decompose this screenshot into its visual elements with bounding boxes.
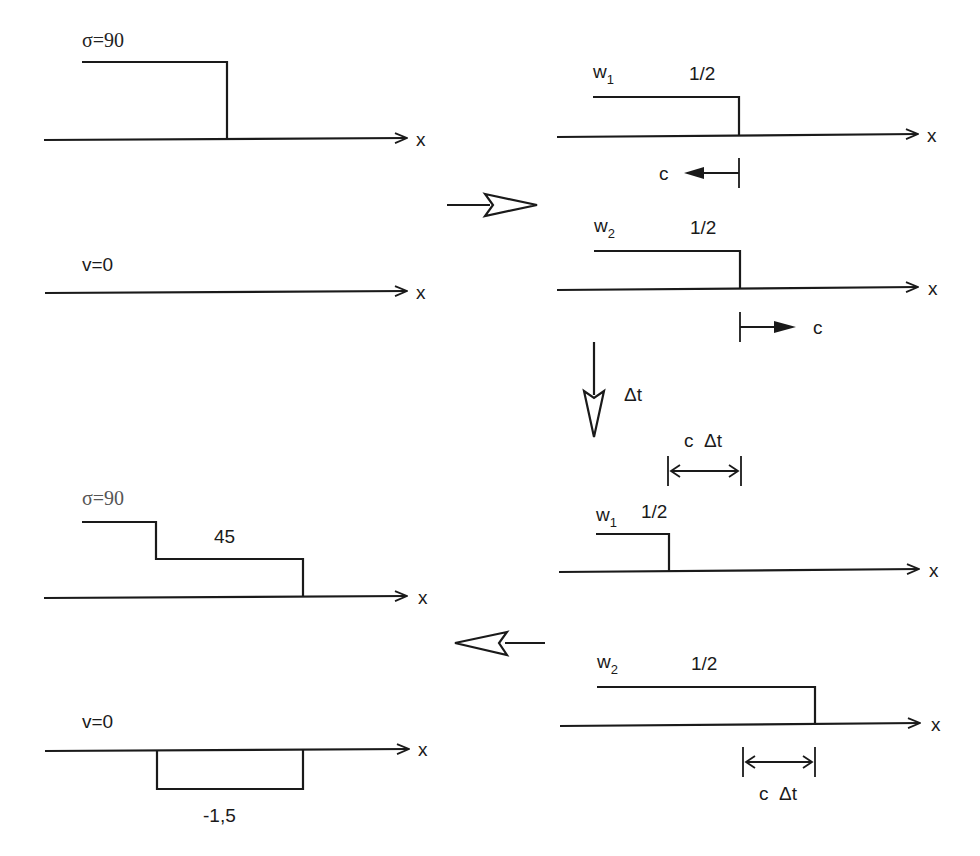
advected-w1-plot: c Δt w1 1/2 x bbox=[559, 430, 939, 581]
wave-splitting-diagram: σ=90 x v=0 x w1 1/2 x c w2 1/2 x bbox=[0, 0, 980, 856]
advected-w2-profile bbox=[597, 687, 815, 725]
shift-label-bottom: c Δt bbox=[759, 783, 798, 804]
result-velocity-step-label: -1,5 bbox=[203, 805, 236, 826]
split-w1-plot: w1 1/2 x c bbox=[557, 61, 937, 188]
split-w1-label: w1 bbox=[592, 61, 614, 87]
time-step-label: Δt bbox=[624, 384, 643, 405]
split-w1-value-label: 1/2 bbox=[689, 63, 715, 84]
split-w2-velocity-label: c bbox=[813, 317, 823, 338]
hollow-down-arrow-icon bbox=[584, 342, 604, 437]
initial-stress-profile bbox=[82, 62, 227, 139]
initial-velocity-label: v=0 bbox=[82, 254, 113, 275]
result-stress-plot: σ=90 45 x bbox=[44, 487, 428, 608]
result-stress-label: σ=90 bbox=[82, 487, 124, 509]
result-velocity-profile bbox=[157, 749, 303, 789]
split-w2-profile bbox=[594, 251, 740, 289]
result-stress-axis bbox=[44, 596, 407, 598]
shift-dimension-top-icon bbox=[668, 456, 741, 486]
split-w2-plot: w2 1/2 x c bbox=[557, 215, 938, 342]
result-stress-axis-label: x bbox=[418, 587, 428, 608]
result-velocity-label: v=0 bbox=[82, 711, 113, 732]
split-w2-label: w2 bbox=[593, 215, 615, 241]
shift-dimension-bottom-icon bbox=[743, 747, 815, 777]
result-stress-step-label: 45 bbox=[214, 526, 235, 547]
initial-velocity-axis bbox=[45, 291, 407, 293]
initial-stress-axis bbox=[44, 138, 407, 140]
split-w2-value-label: 1/2 bbox=[690, 217, 716, 238]
split-w1-axis bbox=[557, 134, 918, 137]
split-w1-velocity-label: c bbox=[659, 163, 669, 184]
result-stress-profile bbox=[82, 522, 303, 597]
split-w2-axis bbox=[557, 287, 918, 290]
advected-w1-profile bbox=[596, 534, 669, 571]
advected-w2-plot: w2 1/2 x c Δt bbox=[560, 651, 941, 804]
result-velocity-axis bbox=[45, 749, 409, 751]
advected-w1-label: w1 bbox=[595, 504, 617, 530]
right-velocity-arrow-icon bbox=[740, 312, 796, 342]
result-velocity-axis-label: x bbox=[418, 739, 428, 760]
advected-w2-axis bbox=[560, 723, 920, 726]
advected-w2-label: w2 bbox=[596, 651, 618, 677]
advected-w2-value-label: 1/2 bbox=[691, 653, 717, 674]
advected-w1-axis-label: x bbox=[929, 560, 939, 581]
initial-stress-label: σ=90 bbox=[82, 29, 124, 51]
shift-label-top: c Δt bbox=[684, 430, 723, 451]
initial-stress-plot: σ=90 x bbox=[44, 29, 426, 150]
hollow-left-arrow-icon bbox=[455, 632, 545, 655]
hollow-right-arrow-icon bbox=[447, 194, 537, 216]
advected-w1-value-label: 1/2 bbox=[641, 501, 667, 522]
split-w1-profile bbox=[593, 97, 739, 136]
advected-w1-axis bbox=[559, 569, 919, 572]
initial-velocity-plot: v=0 x bbox=[45, 254, 426, 303]
split-w2-axis-label: x bbox=[928, 278, 938, 299]
split-w1-axis-label: x bbox=[927, 125, 937, 146]
advected-w2-axis-label: x bbox=[931, 714, 941, 735]
initial-stress-axis-label: x bbox=[416, 129, 426, 150]
result-velocity-plot: v=0 x -1,5 bbox=[45, 711, 428, 826]
left-velocity-arrow-icon bbox=[684, 158, 739, 188]
initial-velocity-axis-label: x bbox=[416, 282, 426, 303]
